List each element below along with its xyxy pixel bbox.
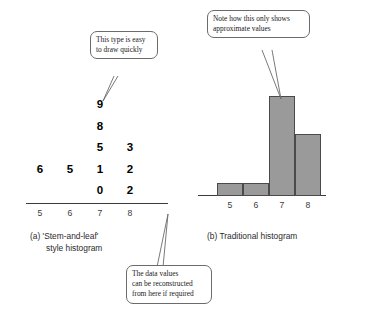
figure-stem-and-leaf-vs-histogram: 6 5 9 8 5 1 0 3 2 2 5 6 7 8 (a) 'Stem-an…	[0, 0, 369, 320]
callout-line: The data values	[132, 269, 206, 279]
callout-line: to draw quickly	[96, 45, 152, 55]
callout-line: approximate values	[213, 24, 304, 34]
callout-line: Note how this only shows	[213, 14, 304, 24]
callout-approximate-values: Note how this only shows approximate val…	[207, 10, 310, 38]
callout-line: This type is easy	[96, 35, 152, 45]
callout-reconstruct-data: The data values can be reconstructed fro…	[126, 265, 212, 304]
callout-line: from here if required	[132, 289, 206, 299]
callout-line: can be reconstructed	[132, 279, 206, 289]
callout-easy-to-draw: This type is easy to draw quickly	[90, 31, 158, 59]
